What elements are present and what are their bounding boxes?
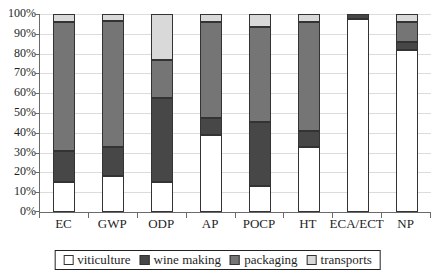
stacked-bar-chart: 0%10%20%30%40%50%60%70%80%90%100% ECGWPO… [0, 0, 435, 278]
bar-segment-eca-ect-viticulture [347, 19, 369, 212]
bar-segment-ht-packaging [298, 22, 320, 131]
bar-segment-gwp-viticulture [102, 176, 124, 212]
y-tick-90 [35, 34, 39, 35]
bar-NP [396, 14, 418, 212]
y-tick-40 [35, 133, 39, 134]
y-tick-label-100: 100% [0, 7, 36, 19]
bar-segment-ht-viticulture [298, 147, 320, 212]
x-label-ap: AP [202, 216, 219, 231]
legend-swatch-transports [307, 255, 317, 265]
y-tick-label-20: 20% [0, 165, 36, 177]
y-tick-label-60: 60% [0, 86, 36, 98]
legend-item-packaging: packaging [230, 253, 297, 267]
legend-label-transports: transports [321, 253, 372, 267]
bar-slot-GWP [89, 14, 138, 212]
legend-label-wine-making: wine making [154, 253, 222, 267]
y-tick-label-70: 70% [0, 66, 36, 78]
bar-ECA/ECT [347, 14, 369, 212]
bar-segment-odp-wine-making [151, 98, 173, 182]
legend-item-wine-making: wine making [140, 253, 222, 267]
bar-slot-POCP [236, 14, 285, 212]
bar-POCP [249, 14, 271, 212]
x-axis-labels: ECGWPODPAPPOCPHTECA/ECTNP [39, 216, 430, 232]
legend: viticulturewine makingpackagingtransport… [54, 250, 381, 270]
bar-segment-np-viticulture [396, 50, 418, 212]
bar-EC [53, 14, 75, 212]
bar-slot-NP [382, 14, 431, 212]
bar-segment-np-packaging [396, 22, 418, 42]
bar-AP [200, 14, 222, 212]
bar-segment-ap-viticulture [200, 135, 222, 212]
x-label-gwp: GWP [98, 216, 127, 231]
bar-segment-ec-transports [53, 14, 75, 22]
bar-slot-AP [187, 14, 236, 212]
y-tick-label-40: 40% [0, 126, 36, 138]
bar-segment-ap-transports [200, 14, 222, 22]
y-tick-100 [35, 14, 39, 15]
bar-segment-ec-packaging [53, 22, 75, 151]
bar-segment-ap-packaging [200, 22, 222, 118]
bar-segment-ap-wine-making [200, 118, 222, 135]
y-tick-30 [35, 153, 39, 154]
bar-segment-ht-transports [298, 14, 320, 22]
bar-segment-odp-packaging [151, 60, 173, 99]
y-tick-label-0: 0% [0, 205, 36, 217]
y-tick-label-10: 10% [0, 185, 36, 197]
x-label-ec: EC [55, 216, 72, 231]
bar-segment-ec-wine-making [53, 151, 75, 183]
legend-item-transports: transports [307, 253, 372, 267]
legend-swatch-viticulture [63, 255, 73, 265]
y-tick-label-30: 30% [0, 146, 36, 158]
bar-segment-pocp-packaging [249, 27, 271, 122]
bar-segment-pocp-wine-making [249, 122, 271, 186]
bar-segment-pocp-transports [249, 14, 271, 27]
bar-segment-gwp-transports [102, 14, 124, 21]
bar-slot-ECA/ECT [333, 14, 382, 212]
bar-segment-gwp-wine-making [102, 147, 124, 177]
legend-item-viticulture: viticulture [63, 253, 130, 267]
bar-HT [298, 14, 320, 212]
y-tick-10 [35, 192, 39, 193]
y-tick-0 [35, 211, 39, 212]
bar-segment-ec-viticulture [53, 182, 75, 212]
bar-segment-pocp-viticulture [249, 186, 271, 212]
y-tick-50 [35, 113, 39, 114]
legend-swatch-packaging [230, 255, 240, 265]
y-tick-70 [35, 73, 39, 74]
bar-segment-ht-wine-making [298, 131, 320, 147]
y-tick-label-50: 50% [0, 106, 36, 118]
y-tick-60 [35, 93, 39, 94]
x-label-eca-ect: ECA/ECT [330, 216, 384, 231]
bar-segment-odp-transports [151, 14, 173, 60]
y-axis-labels: 0%10%20%30%40%50%60%70%80%90%100% [0, 14, 36, 212]
x-tick-8 [430, 213, 431, 218]
y-tick-80 [35, 54, 39, 55]
y-tick-20 [35, 172, 39, 173]
legend-swatch-wine-making [140, 255, 150, 265]
y-tick-label-90: 90% [0, 27, 36, 39]
bar-segment-odp-viticulture [151, 182, 173, 212]
plot-area [39, 14, 431, 213]
bar-ODP [151, 14, 173, 212]
legend-label-viticulture: viticulture [77, 253, 130, 267]
bar-slot-EC [40, 14, 89, 212]
x-label-ht: HT [299, 216, 316, 231]
bar-slot-HT [284, 14, 333, 212]
bar-GWP [102, 14, 124, 212]
x-label-np: NP [397, 216, 414, 231]
x-label-odp: ODP [148, 216, 174, 231]
bar-segment-gwp-packaging [102, 21, 124, 147]
bar-slot-ODP [138, 14, 187, 212]
legend-label-packaging: packaging [244, 253, 297, 267]
y-tick-label-80: 80% [0, 47, 36, 59]
x-label-pocp: POCP [243, 216, 276, 231]
bar-segment-np-transports [396, 14, 418, 22]
bar-segment-np-wine-making [396, 42, 418, 50]
